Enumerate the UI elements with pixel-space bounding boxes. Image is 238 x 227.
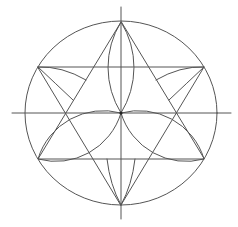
center-point [119, 111, 122, 114]
point-arc [121, 159, 135, 205]
diagram-svg [0, 0, 238, 227]
point-arc [107, 159, 121, 205]
hexagram-diagram [0, 0, 238, 227]
center-dot [119, 111, 122, 114]
